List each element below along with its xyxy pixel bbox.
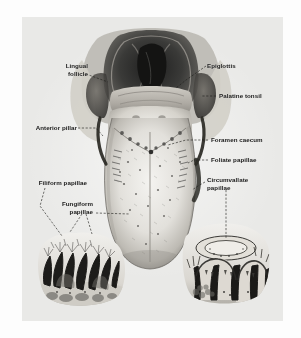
label-foramen-caecum: Foramen caecum [211,136,263,144]
label-lingual-follicle: Lingual follicle [52,62,88,77]
label-foliate-papillae: Foliate papillae [211,156,257,164]
vallate-papilla-crown [205,241,247,256]
label-palatine-tonsil: Palatine tonsil [219,92,262,100]
label-fungiform-papillae: Fungiform papillae [55,200,93,215]
inset-filiform-fungiform [34,233,126,312]
leader-fungiform-inset-b [86,214,92,234]
glottis [137,44,166,90]
right-anterior-pillar [196,118,204,164]
leader-fungiform-inset-a [70,214,82,232]
tongue-illustration [0,0,301,338]
tongue-anatomy-figure: Lingual follicle Epiglottis Palatine ton… [0,0,301,338]
left-anterior-pillar [98,118,106,164]
label-filiform-papillae: Filiform papillae [25,179,87,187]
label-epiglottis: Epiglottis [207,62,236,70]
label-circumvallate-papillae: Circumvallate papillae [207,176,255,191]
inset-circumvallate [183,224,271,304]
label-anterior-pillar: Anterior pillar [18,124,77,132]
foramen-caecum [149,150,154,155]
